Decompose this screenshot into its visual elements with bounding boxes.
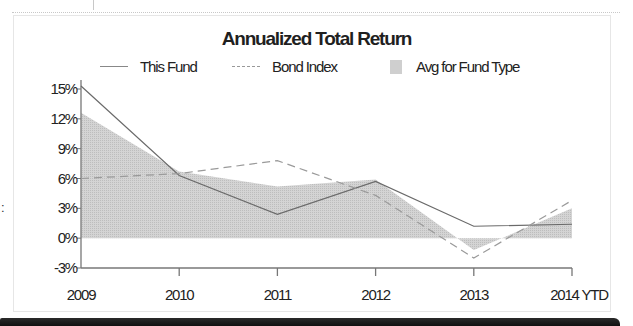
y-tick-label: 9%: [58, 140, 78, 157]
y-tick-label: 12%: [51, 110, 78, 127]
y-tick-label: 6%: [58, 170, 78, 187]
x-axis-tick-labels: 200920102011201220132014 YTD: [67, 286, 609, 303]
x-tick-label: 2012: [361, 286, 390, 303]
x-tick-label: 2014 YTD: [550, 286, 609, 303]
x-tick-label: 2013: [460, 286, 489, 303]
bottom-dark-bar: [0, 318, 620, 326]
y-tick-label: 3%: [58, 199, 78, 216]
x-tick-label: 2011: [264, 286, 292, 303]
y-tick-label: 15%: [51, 80, 78, 97]
x-tick-label: 2009: [67, 286, 96, 303]
avg-fund-type-area: [81, 113, 572, 250]
y-tick-label: -3%: [54, 259, 78, 276]
avg-area-shape: [81, 113, 572, 250]
x-tick-label: 2010: [165, 286, 194, 303]
y-tick-label: 0%: [58, 229, 78, 246]
y-axis-tick-labels: 15%12%9%6%3%0%-3%: [51, 80, 78, 276]
